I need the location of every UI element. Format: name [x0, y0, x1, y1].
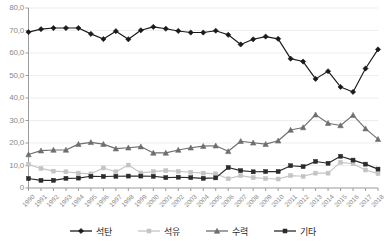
data-point-marker: [350, 89, 355, 94]
legend-item-수력[interactable]: 수력: [206, 225, 248, 238]
y-axis-tick-label: 30,0: [0, 116, 24, 125]
data-point-marker: [314, 159, 318, 163]
data-point-marker: [189, 176, 193, 180]
data-point-marker: [214, 176, 218, 180]
legend-item-석유[interactable]: 석유: [138, 225, 180, 238]
data-point-marker: [364, 162, 368, 166]
legend-label: 기타: [300, 225, 316, 238]
y-axis-tick-label: 10,0: [0, 161, 24, 170]
data-point-marker: [39, 178, 43, 182]
data-point-marker: [64, 170, 68, 174]
legend-marker-icon: [138, 226, 160, 236]
data-point-marker: [301, 174, 305, 178]
data-point-marker: [376, 167, 380, 171]
data-point-marker: [139, 174, 143, 178]
data-point-marker: [263, 34, 268, 39]
data-point-marker: [89, 174, 93, 178]
data-point-marker: [283, 229, 287, 233]
data-point-marker: [376, 172, 380, 176]
data-point-marker: [251, 176, 255, 180]
y-axis-tick-label: 80,0: [0, 3, 24, 12]
data-point-marker: [213, 28, 218, 33]
y-axis-tick-label: 70,0: [0, 26, 24, 35]
data-point-marker: [101, 166, 105, 170]
data-point-marker: [51, 178, 55, 182]
data-point-marker: [226, 177, 230, 181]
data-point-marker: [350, 112, 355, 117]
data-point-marker: [176, 169, 180, 173]
data-point-marker: [176, 28, 181, 33]
y-axis-tick-label: 50,0: [0, 71, 24, 80]
data-point-marker: [147, 229, 151, 233]
data-point-marker: [264, 177, 268, 181]
data-point-marker: [39, 166, 43, 170]
data-point-marker: [114, 174, 118, 178]
data-point-marker: [76, 171, 80, 175]
data-point-marker: [276, 177, 280, 181]
data-point-marker: [63, 25, 68, 30]
data-point-marker: [51, 25, 56, 30]
data-point-marker: [151, 170, 155, 174]
chart-legend: 석탄석유수력기타: [0, 219, 386, 243]
series-기타: [27, 154, 381, 182]
data-point-marker: [114, 170, 118, 174]
data-point-marker: [88, 31, 93, 36]
data-point-marker: [251, 170, 255, 174]
data-point-marker: [214, 172, 218, 176]
data-point-marker: [101, 175, 105, 179]
data-point-marker: [151, 174, 155, 178]
data-point-marker: [176, 175, 180, 179]
data-point-marker: [201, 176, 205, 180]
data-point-marker: [126, 174, 130, 178]
data-point-marker: [76, 25, 81, 30]
series-수력: [26, 112, 381, 157]
legend-marker-icon: [274, 226, 296, 236]
data-point-marker: [364, 168, 368, 172]
data-point-marker: [314, 171, 318, 175]
data-point-marker: [264, 170, 268, 174]
data-point-marker: [301, 165, 305, 169]
legend-marker-icon: [206, 226, 228, 236]
data-point-marker: [239, 174, 243, 178]
data-point-marker: [78, 228, 83, 233]
data-point-marker: [76, 176, 80, 180]
data-point-marker: [239, 169, 243, 173]
y-axis-tick-label: 20,0: [0, 138, 24, 147]
y-axis-tick-label: 40,0: [0, 93, 24, 102]
series-석탄: [26, 24, 381, 94]
legend-marker-icon: [70, 226, 92, 236]
series-line: [29, 27, 379, 92]
data-point-marker: [151, 24, 156, 29]
y-axis-tick-label: 60,0: [0, 48, 24, 57]
data-point-marker: [326, 161, 330, 165]
line-chart: 80,070,060,050,040,030,020,010,001990199…: [0, 0, 386, 245]
data-point-marker: [289, 164, 293, 168]
legend-item-기타[interactable]: 기타: [274, 225, 316, 238]
data-point-marker: [226, 166, 230, 170]
data-point-marker: [189, 170, 193, 174]
legend-item-석탄[interactable]: 석탄: [70, 225, 112, 238]
legend-label: 석유: [164, 225, 180, 238]
data-point-marker: [251, 37, 256, 42]
legend-label: 수력: [232, 225, 248, 238]
legend-label: 석탄: [96, 225, 112, 238]
data-point-marker: [339, 160, 343, 164]
data-point-marker: [27, 177, 31, 181]
data-point-marker: [339, 154, 343, 158]
data-point-marker: [126, 163, 130, 167]
data-point-marker: [313, 112, 318, 117]
data-point-marker: [201, 171, 205, 175]
data-point-marker: [276, 170, 280, 174]
data-point-marker: [326, 171, 330, 175]
y-axis-tick-label: 0: [0, 183, 24, 192]
data-point-marker: [351, 158, 355, 162]
data-point-marker: [164, 169, 168, 173]
data-point-marker: [164, 176, 168, 180]
data-point-marker: [51, 169, 55, 173]
data-point-marker: [289, 174, 293, 178]
data-point-marker: [64, 176, 68, 180]
data-point-marker: [27, 162, 31, 166]
